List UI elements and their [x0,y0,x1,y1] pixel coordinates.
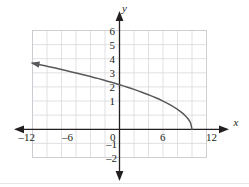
x-tick-label: –6 [61,131,74,143]
x-tick-label: 12 [206,131,217,143]
plot-background [0,0,249,187]
y-tick-label: 6 [110,25,116,37]
y-axis-label: y [121,2,127,14]
y-tick-label: 1 [110,95,116,107]
y-tick-label: –2 [105,152,117,164]
coordinate-graph-figure: y x –12 –6 0 6 12 6 5 4 3 2 1 –1 –2 [0,0,249,187]
x-tick-label: –12 [18,131,36,143]
x-axis-label: x [233,116,239,128]
x-tick-label: 6 [160,131,166,143]
y-tick-label: 4 [110,53,116,65]
y-tick-label: –1 [105,138,117,150]
y-tick-label: 3 [110,67,116,79]
y-tick-label: 5 [110,39,116,51]
